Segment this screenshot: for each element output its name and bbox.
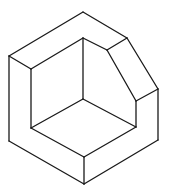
edge-front_top-to-inner_right_bottom: [84, 127, 136, 157]
edge-inner_floor_corner-to-inner_right_bottom: [83, 99, 136, 127]
edge-chamfer_inner_top-to-chamfer_inner_bottom: [107, 50, 136, 101]
edge-bottom-to-right_outer_bottom: [84, 140, 158, 184]
edge-left_outer_bottom-to-bottom: [9, 141, 84, 184]
edge-front_top-to-inner_left_bottom: [31, 128, 84, 157]
edge-top_outer-to-chamfer_outer_top: [83, 12, 127, 38]
edge-chamfer_inner_bottom-to-right_outer_top: [136, 89, 158, 101]
edge-chamfer_outer_top-to-right_outer_top: [127, 38, 158, 89]
edge-chamfer_inner_top-to-chamfer_outer_top: [107, 38, 127, 50]
edge-top_outer-to-left_outer_top: [9, 12, 83, 56]
isometric-block-diagram: [0, 0, 170, 194]
edge-inner_floor_corner-to-inner_left_bottom: [31, 99, 83, 128]
edge-inner_left_top-to-inner_back_corner: [31, 38, 83, 69]
edge-inner_back_corner-to-chamfer_inner_top: [83, 38, 107, 50]
diagram-edges: [9, 12, 158, 184]
edge-left_outer_top-to-inner_left_top: [9, 56, 31, 69]
